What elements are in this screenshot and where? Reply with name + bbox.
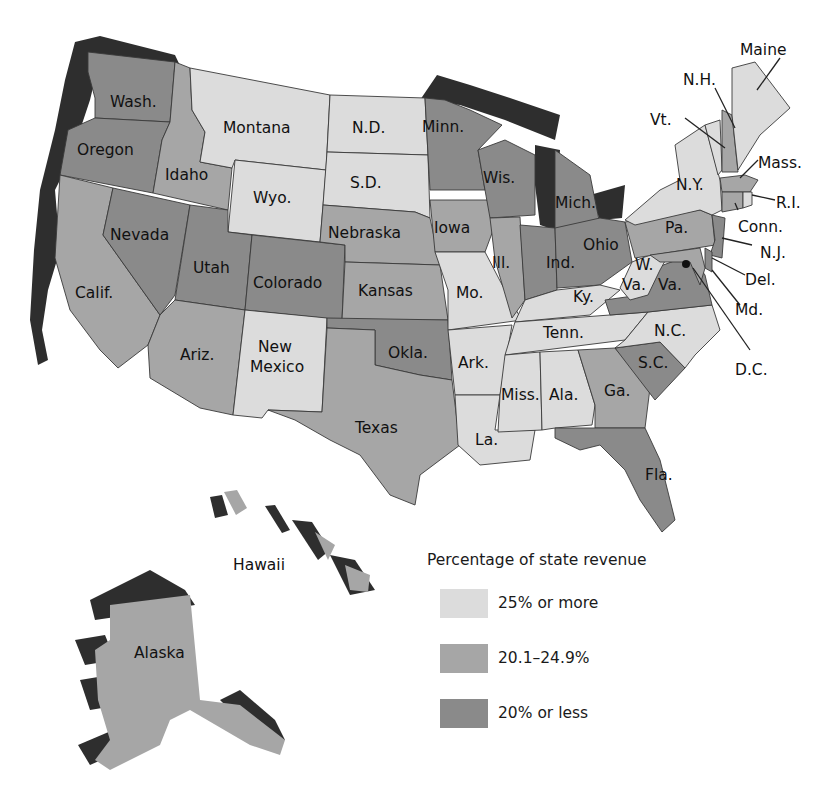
label-sd: S.D.	[350, 174, 382, 192]
legend-item-mid: 20.1–24.9%	[440, 644, 727, 672]
label-nebraska: Nebraska	[328, 224, 401, 242]
label-montana: Montana	[223, 119, 291, 137]
label-okla: Okla.	[388, 344, 428, 362]
legend-label-low: 20% or less	[498, 704, 588, 722]
label-la: La.	[475, 431, 498, 449]
label-mich: Mich.	[555, 194, 596, 212]
label-colorado: Colorado	[253, 274, 322, 292]
label-miss: Miss.	[501, 386, 540, 404]
legend-item-low: 20% or less	[440, 699, 727, 727]
label-alaska: Alaska	[134, 644, 185, 662]
label-utah: Utah	[193, 259, 230, 277]
label-nd: N.D.	[352, 119, 385, 137]
state-ny[interactable]	[625, 125, 722, 225]
dc-point-icon	[682, 260, 690, 268]
label-tenn: Tenn.	[542, 324, 584, 342]
alaska-shape[interactable]	[75, 570, 285, 770]
label-texas: Texas	[354, 419, 398, 437]
label-nevada: Nevada	[110, 226, 169, 244]
label-ky: Ky.	[573, 288, 594, 306]
label-iowa: Iowa	[434, 219, 470, 237]
map-legend: Percentage of state revenue 25% or more …	[427, 551, 727, 754]
state-ri[interactable]	[743, 192, 752, 208]
label-calif: Calif.	[75, 284, 113, 302]
label-pa: Pa.	[665, 219, 688, 237]
label-nm1: New	[258, 338, 292, 356]
legend-item-high: 25% or more	[440, 589, 727, 617]
label-wva2: Va.	[622, 276, 646, 294]
label-dc: D.C.	[735, 361, 768, 379]
label-mo: Mo.	[456, 284, 484, 302]
label-mass: Mass.	[758, 154, 802, 172]
swatch-low	[440, 699, 488, 728]
label-wyo: Wyo.	[253, 189, 291, 207]
state-mich[interactable]	[555, 150, 600, 230]
label-md: Md.	[735, 301, 763, 319]
label-oregon: Oregon	[77, 141, 134, 159]
label-nm2: Mexico	[250, 358, 304, 376]
label-conn: Conn.	[738, 218, 783, 236]
label-ala: Ala.	[549, 386, 578, 404]
label-vt: Vt.	[650, 111, 672, 129]
state-wash[interactable]	[88, 52, 175, 122]
label-ill: Ill.	[492, 254, 510, 272]
state-mass[interactable]	[720, 175, 758, 192]
state-del[interactable]	[705, 248, 712, 272]
label-ny: N.Y.	[676, 176, 704, 194]
label-fla: Fla.	[645, 466, 673, 484]
label-hawaii: Hawaii	[233, 556, 285, 574]
legend-label-mid: 20.1–24.9%	[498, 649, 590, 667]
label-wash: Wash.	[110, 93, 157, 111]
label-del: Del.	[745, 271, 776, 289]
label-sc: S.C.	[638, 354, 669, 372]
legend-title: Percentage of state revenue	[427, 551, 727, 569]
label-nh: N.H.	[683, 71, 716, 89]
label-nc: N.C.	[654, 322, 686, 340]
label-wva1: W.	[635, 256, 653, 274]
label-ariz: Ariz.	[180, 346, 214, 364]
label-minn: Minn.	[422, 118, 464, 136]
label-wis: Wis.	[483, 169, 515, 187]
label-kansas: Kansas	[358, 282, 413, 300]
label-ind: Ind.	[546, 254, 575, 272]
label-ri: R.I.	[776, 194, 801, 212]
label-idaho: Idaho	[165, 166, 208, 184]
legend-label-high: 25% or more	[498, 594, 598, 612]
label-maine: Maine	[740, 41, 787, 59]
hawaii-islands[interactable]	[210, 490, 375, 595]
label-ohio: Ohio	[583, 236, 619, 254]
label-ga: Ga.	[604, 382, 630, 400]
swatch-mid	[440, 644, 488, 673]
label-nj: N.J.	[760, 244, 786, 262]
label-ark: Ark.	[458, 354, 489, 372]
swatch-high	[440, 589, 488, 618]
label-va: Va.	[658, 276, 682, 294]
state-conn[interactable]	[722, 192, 743, 212]
